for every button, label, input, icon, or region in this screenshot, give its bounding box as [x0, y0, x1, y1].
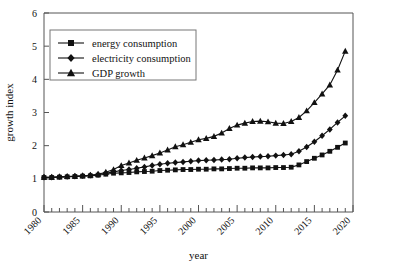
marker-triangle: [334, 67, 340, 73]
marker-square: [304, 159, 309, 164]
marker-diamond: [311, 138, 317, 144]
marker-square: [273, 165, 278, 170]
marker-square: [250, 165, 255, 170]
x-axis-tick-label-group: 1980: [21, 215, 43, 237]
marker-diamond: [227, 156, 233, 162]
x-axis-tick-label-group: 1985: [60, 215, 82, 237]
y-axis-title-group: growth index: [3, 83, 15, 142]
series-energy-consumption: [42, 141, 348, 180]
chart-figure: 0123456198019851990199520002005201020152…: [0, 0, 393, 266]
x-axis-tick-label: 1980: [21, 215, 43, 237]
marker-square: [297, 163, 302, 168]
marker-diamond: [234, 155, 240, 161]
marker-diamond: [242, 154, 248, 160]
marker-diamond: [257, 153, 263, 159]
marker-triangle: [218, 130, 224, 136]
marker-diamond: [250, 154, 256, 160]
marker-square: [68, 40, 74, 46]
marker-square: [181, 167, 186, 172]
marker-square: [281, 165, 286, 170]
marker-square: [320, 153, 325, 158]
marker-diamond: [296, 148, 302, 154]
x-axis-tick-label-group: 1995: [137, 215, 159, 237]
marker-diamond: [149, 162, 155, 168]
marker-square: [235, 166, 240, 171]
marker-square: [165, 168, 170, 173]
marker-diamond: [265, 153, 271, 159]
x-axis-tick-label-group: 2005: [215, 215, 237, 237]
legend-label: energy consumption: [92, 38, 178, 49]
marker-triangle: [342, 48, 348, 54]
marker-square: [212, 166, 217, 171]
marker-square: [150, 169, 155, 174]
marker-diamond: [203, 157, 209, 163]
marker-diamond: [157, 161, 163, 167]
y-axis-tick-label: 6: [32, 8, 37, 19]
marker-square: [227, 166, 232, 171]
x-axis-tick-label: 2010: [253, 215, 275, 237]
x-axis-tick-label: 1995: [137, 215, 159, 237]
marker-diamond: [165, 160, 171, 166]
marker-diamond: [273, 152, 279, 158]
y-axis-tick-label: 2: [32, 140, 37, 151]
marker-square: [312, 156, 317, 161]
x-axis-tick-label-group: 1990: [99, 215, 121, 237]
marker-triangle: [288, 118, 294, 124]
legend: energy consumptionelectricity consumptio…: [50, 30, 196, 80]
series-line: [44, 143, 345, 178]
marker-square: [289, 165, 294, 170]
marker-diamond: [196, 157, 202, 163]
x-axis-tick-label: 2000: [176, 215, 198, 237]
marker-square: [188, 167, 193, 172]
y-axis-title: growth index: [3, 83, 15, 142]
marker-square: [266, 165, 271, 170]
legend-label: GDP growth: [92, 68, 146, 79]
x-axis-tick-label: 2015: [292, 215, 314, 237]
marker-square: [196, 167, 201, 172]
x-axis-tick-label: 2020: [330, 215, 352, 237]
marker-diamond: [180, 159, 186, 165]
marker-diamond: [211, 157, 217, 163]
series-line: [44, 116, 345, 177]
marker-triangle: [327, 82, 333, 88]
marker-square: [343, 141, 348, 146]
marker-diamond: [172, 159, 178, 165]
marker-square: [242, 166, 247, 171]
y-axis-tick-label: 5: [32, 41, 37, 52]
x-axis-tick-label-group: 2010: [253, 215, 275, 237]
series-electricity-consumption: [41, 113, 348, 181]
marker-triangle: [110, 166, 116, 172]
x-axis-title: year: [189, 249, 208, 261]
marker-square: [335, 145, 340, 150]
legend-label: electricity consumption: [92, 53, 192, 64]
x-axis-tick-label-group: 2015: [292, 215, 314, 237]
x-axis-tick-label: 1985: [60, 215, 82, 237]
marker-square: [157, 168, 162, 173]
x-axis-tick-label: 2005: [215, 215, 237, 237]
marker-square: [173, 167, 178, 172]
line-chart-svg: 0123456198019851990199520002005201020152…: [0, 0, 393, 266]
marker-square: [219, 166, 224, 171]
marker-diamond: [304, 144, 310, 150]
x-axis-tick-label-group: 2020: [330, 215, 352, 237]
x-axis-tick-label-group: 2000: [176, 215, 198, 237]
y-axis-tick-label: 1: [32, 173, 37, 184]
x-axis-tick-label: 1990: [99, 215, 121, 237]
marker-diamond: [288, 151, 294, 157]
y-axis-tick-label: 3: [32, 107, 37, 118]
y-axis-tick-label: 4: [32, 74, 37, 85]
marker-diamond: [188, 158, 194, 164]
marker-diamond: [219, 156, 225, 162]
marker-square: [327, 149, 332, 154]
marker-diamond: [281, 152, 287, 158]
marker-square: [258, 165, 263, 170]
marker-square: [204, 167, 209, 172]
